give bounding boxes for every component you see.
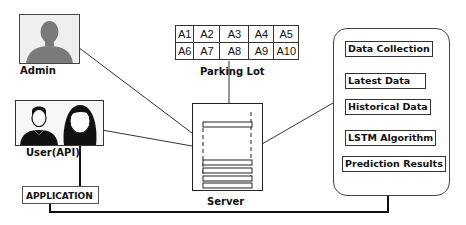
parking-lot-label: Parking Lot (200, 66, 265, 77)
step-prediction-results: Prediction Results (342, 156, 446, 172)
step-lstm-algorithm: LSTM Algorithm (345, 130, 436, 146)
application-box: APPLICATION (22, 186, 99, 204)
step-latest-data: Latest Data (345, 73, 426, 89)
step-data-collection: Data Collection (345, 41, 433, 57)
parking-slot: A8 (220, 43, 249, 60)
parking-slot: A9 (249, 43, 274, 60)
parking-slot: A3 (220, 26, 249, 43)
parking-slot: A5 (274, 26, 299, 43)
parking-slot: A6 (176, 43, 194, 60)
admin-silhouette-icon (20, 15, 79, 63)
server-box (192, 103, 263, 191)
admin-avatar (19, 14, 80, 64)
server-document-icon (193, 104, 262, 190)
admin-label: Admin (20, 65, 56, 76)
users-server-connector (102, 130, 192, 146)
parking-row: A6 A7 A8 A9 A10 (176, 43, 299, 60)
users-avatar (15, 100, 104, 146)
users-male-female-icon (16, 101, 103, 145)
pipeline-container: Data Collection Latest Data Historical D… (333, 28, 450, 196)
parking-slot: A2 (194, 26, 220, 43)
users-label: User(API) (26, 147, 80, 158)
server-pipeline-connector (262, 103, 333, 144)
parking-row: A1 A2 A3 A4 A5 (176, 26, 299, 43)
parking-slot: A10 (274, 43, 299, 60)
parking-slot: A1 (176, 26, 194, 43)
parking-slot: A7 (194, 43, 220, 60)
parking-slot: A4 (249, 26, 274, 43)
server-label: Server (207, 196, 244, 207)
step-historical-data: Historical Data (345, 99, 431, 115)
parking-lot-grid: A1 A2 A3 A4 A5 A6 A7 A8 A9 A10 (175, 25, 299, 60)
